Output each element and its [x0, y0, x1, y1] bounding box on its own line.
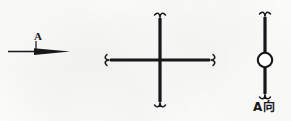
view-direction-arrow-graphic: [6, 28, 86, 66]
break-terminator-left: [105, 55, 109, 66]
view-direction-arrow: [6, 28, 86, 66]
drawing-canvas: A: [0, 0, 291, 121]
break-terminator-bottom: [155, 102, 166, 106]
arrowhead-icon: [34, 48, 70, 55]
cross-section-lines: [96, 4, 218, 116]
break-terminator-top: [155, 13, 166, 17]
cross-section-graphic: [96, 4, 218, 116]
view-break-terminator-bottom: [260, 94, 271, 98]
arrow-label-a: A: [34, 31, 42, 42]
view-break-terminator-top: [260, 12, 271, 16]
break-terminator-right: [210, 55, 214, 66]
view-center-circle: [258, 53, 272, 67]
view-a-label: A向: [253, 101, 275, 113]
